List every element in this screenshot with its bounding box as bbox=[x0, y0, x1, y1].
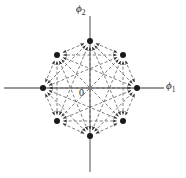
phi2-subscript: 2 bbox=[82, 8, 86, 17]
constellation-point bbox=[120, 118, 126, 124]
constellation-edge bbox=[96, 44, 117, 53]
constellation-edge bbox=[46, 61, 55, 82]
constellation-edge bbox=[126, 61, 135, 82]
constellation-point bbox=[40, 85, 46, 91]
constellation-edge bbox=[63, 44, 84, 53]
constellation-point bbox=[54, 118, 60, 124]
phi1-axis-label: ϕ1 bbox=[166, 80, 175, 94]
phi1-subscript: 1 bbox=[172, 85, 176, 94]
constellation-point bbox=[120, 52, 126, 58]
constellation-edge bbox=[96, 124, 117, 134]
constellation-edge bbox=[46, 94, 55, 115]
constellation-point bbox=[134, 85, 140, 91]
constellation-point bbox=[87, 133, 93, 139]
constellation-point bbox=[87, 38, 93, 44]
constellation-point bbox=[54, 52, 60, 58]
constellation-edge bbox=[126, 94, 135, 115]
figure-canvas bbox=[0, 0, 186, 178]
constellation-figure: ϕ2 ϕ1 0 bbox=[0, 0, 186, 178]
phi2-axis-label: ϕ2 bbox=[76, 3, 85, 17]
constellation-edge bbox=[63, 124, 84, 134]
origin-label: 0 bbox=[79, 88, 84, 98]
